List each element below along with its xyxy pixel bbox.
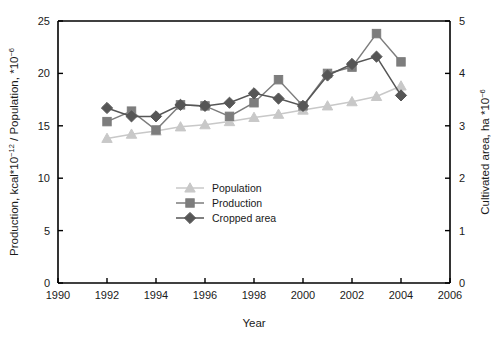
y-right-axis-title: Cultivated area, ha *10−6: [478, 89, 492, 215]
y-right-tick-label: 2: [459, 172, 465, 184]
x-tick-label: 1998: [242, 289, 266, 301]
marker-square: [152, 126, 160, 134]
legend-label-production: Production: [212, 197, 262, 209]
marker-diamond: [248, 88, 259, 99]
y-left-tick-label: 15: [38, 120, 50, 132]
y-right-tick-label: 0: [459, 277, 465, 289]
marker-square: [225, 112, 233, 120]
y-left-axis-title: Production, kcal*10−12 / Population, *10…: [7, 48, 21, 256]
y-left-tick-label: 10: [38, 172, 50, 184]
x-tick-label: 2004: [389, 289, 413, 301]
y-left-tick-label: 5: [44, 225, 50, 237]
legend: PopulationProductionCropped area: [176, 182, 276, 224]
marker-diamond: [273, 93, 284, 104]
y-left-tick-label: 0: [44, 277, 50, 289]
marker-diamond: [371, 51, 382, 62]
y-right-tick-label: 1: [459, 225, 465, 237]
marker-square: [274, 75, 282, 83]
x-tick-label: 1992: [95, 289, 119, 301]
marker-diamond: [395, 90, 406, 101]
x-tick-label: 2006: [438, 289, 462, 301]
marker-diamond: [224, 97, 235, 108]
x-tick-label: 1996: [193, 289, 217, 301]
x-tick-label: 2000: [291, 289, 315, 301]
y-right-tick-label: 5: [459, 15, 465, 27]
marker-diamond: [150, 111, 161, 122]
x-axis-title: Year: [242, 317, 265, 329]
marker-square: [103, 117, 111, 125]
marker-diamond: [184, 212, 195, 223]
y-right-tick-label: 3: [459, 120, 465, 132]
line-chart: 1990199219941996199820002002200420060510…: [0, 0, 502, 344]
marker-diamond: [101, 102, 112, 113]
x-tick-label: 1994: [144, 289, 168, 301]
legend-label-population: Population: [212, 182, 262, 194]
chart-container: 1990199219941996199820002002200420060510…: [0, 0, 502, 344]
marker-square: [250, 99, 258, 107]
x-tick-label: 2002: [340, 289, 364, 301]
x-tick-label: 1990: [46, 289, 70, 301]
y-right-tick-label: 4: [459, 67, 465, 79]
legend-label-cropped-area: Cropped area: [212, 212, 276, 224]
marker-square: [186, 199, 194, 207]
y-left-tick-label: 25: [38, 15, 50, 27]
marker-square: [372, 29, 380, 37]
marker-square: [397, 58, 405, 66]
y-left-tick-label: 20: [38, 67, 50, 79]
marker-triangle: [371, 91, 381, 100]
